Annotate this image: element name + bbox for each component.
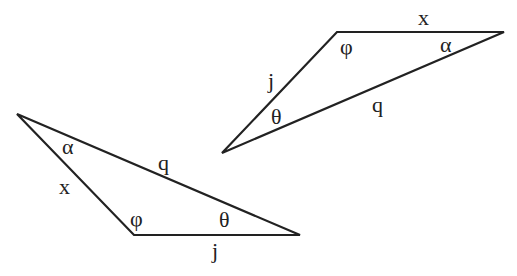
t1-side-j-label: j (267, 68, 274, 93)
t1-angle-theta-label: θ (271, 104, 282, 129)
t2-angle-phi-label: φ (130, 206, 143, 231)
t2-angle-alpha-label: α (62, 134, 74, 159)
t2-side-x-label: x (59, 174, 70, 199)
triangle-upper-right-outline (222, 32, 504, 153)
triangles-diagram: x j q φ α θ α x q φ θ j (0, 0, 517, 276)
t1-angle-phi-label: φ (340, 34, 353, 59)
t2-angle-theta-label: θ (219, 207, 230, 232)
t2-side-j-label: j (211, 238, 218, 263)
t1-side-q-label: q (372, 92, 383, 117)
triangle-upper-right: x j q φ α θ (222, 5, 504, 153)
t2-side-q-label: q (158, 150, 169, 175)
t1-angle-alpha-label: α (440, 32, 452, 57)
triangle-lower-left: α x q φ θ j (17, 114, 300, 263)
t1-side-x-label: x (418, 5, 429, 30)
